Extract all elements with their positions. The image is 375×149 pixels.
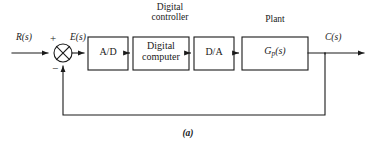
signal-label-output-cs: C(s) — [325, 33, 341, 43]
group-label-digital-controller-line2: controller — [128, 13, 212, 23]
block-label-ad: A/D — [90, 47, 126, 58]
block-label-digital-computer-line2: computer — [135, 52, 187, 63]
signal-label-error-es: E(s) — [70, 33, 86, 43]
block-label-da: D/A — [196, 47, 232, 58]
signal-label-input-rs: R(s) — [16, 33, 32, 43]
summing-junction-minus-sign: − — [52, 63, 58, 75]
summing-junction-plus-sign: + — [50, 33, 56, 45]
block-label-digital-computer-line1: Digital — [135, 41, 187, 52]
group-label-plant: Plant — [240, 15, 310, 25]
plant-tf-suffix: (s) — [275, 45, 286, 56]
figure-container: Digital controller Plant A/D Digital com… — [0, 0, 375, 149]
figure-caption: (a) — [176, 129, 200, 139]
group-label-digital-controller: Digital controller — [128, 3, 212, 23]
block-label-digital-computer: Digital computer — [135, 41, 187, 62]
plant-tf-base: G — [264, 45, 271, 56]
block-label-plant-transfer-function: Gp(s) — [247, 46, 303, 59]
